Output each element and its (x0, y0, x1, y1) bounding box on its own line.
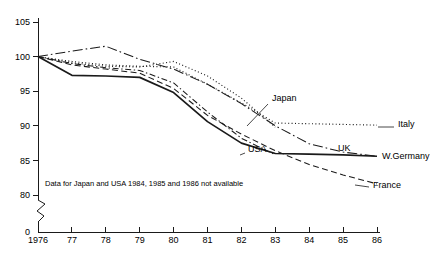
x-tick-label: 1976 (28, 235, 48, 245)
x-axis: 197677787980818283848586 (28, 227, 382, 245)
y-tick-label: 85 (20, 156, 30, 166)
missing-data-note: Data for Japan and USA 1984, 1985 and 19… (45, 179, 243, 188)
x-tick-label: 77 (67, 235, 77, 245)
x-tick-label: 82 (236, 235, 246, 245)
line-chart: 105100959085800 197677787980818283848586… (0, 0, 439, 262)
y-tick-label: 90 (20, 121, 30, 131)
series-label-france: France (373, 180, 401, 190)
y-axis: 105100959085800 (15, 17, 45, 237)
series-label-w-germany: W.Germany (382, 151, 430, 161)
x-tick-label: 86 (372, 235, 382, 245)
y-tick-label: 80 (20, 190, 30, 200)
series-label-usa: USA (248, 144, 267, 154)
x-tick-label: 80 (169, 235, 179, 245)
x-tick-label: 79 (135, 235, 145, 245)
series-labels: JapanItalyUSAUKW.GermanyFrance (240, 93, 430, 190)
x-tick-label: 83 (270, 235, 280, 245)
x-tick-label: 81 (202, 235, 212, 245)
series-label-japan: Japan (272, 93, 297, 103)
y-tick-label: 105 (15, 17, 30, 27)
series-line-uk (38, 57, 377, 157)
chart-footnote: Data for Japan and USA 1984, 1985 and 19… (45, 179, 243, 188)
chart-container: 105100959085800 197677787980818283848586… (0, 0, 439, 262)
y-axis-break-icon (37, 200, 45, 222)
leader-line-usa (240, 153, 245, 155)
series-lines (38, 46, 377, 184)
series-label-italy: Italy (398, 119, 415, 129)
x-tick-label: 84 (304, 235, 314, 245)
series-label-uk: UK (338, 143, 351, 153)
leader-line-france (355, 185, 369, 187)
x-tick-label: 78 (101, 235, 111, 245)
series-line-usa (38, 57, 275, 155)
leader-line-japan (247, 104, 268, 126)
y-tick-label: 95 (20, 86, 30, 96)
x-tick-label: 85 (338, 235, 348, 245)
y-tick-label: 100 (15, 52, 30, 62)
